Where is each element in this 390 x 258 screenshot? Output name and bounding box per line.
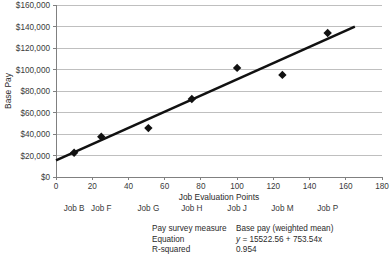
stats-value: 0.954 [236, 245, 257, 256]
x-tick-label: 160 [339, 182, 353, 191]
y-tick-label: $20,000 [20, 152, 50, 161]
data-point-marker[interactable] [233, 64, 241, 72]
scatter-plot: $0$20,000$40,000$60,000$80,000$100,000$1… [0, 0, 390, 258]
x-tick-label: 80 [196, 182, 206, 191]
x-tick-label: 120 [266, 182, 280, 191]
y-tick-label: $60,000 [20, 109, 50, 118]
x-tick-label: 40 [124, 182, 134, 191]
job-label-p: Job P [317, 204, 338, 213]
stats-row: R-squared0.954 [152, 245, 333, 256]
stats-value: Base pay (weighted mean) [236, 224, 333, 235]
y-tick-label: $0 [41, 173, 51, 182]
x-tick-label: 180 [375, 182, 389, 191]
y-tick-label: $160,000 [16, 1, 51, 10]
x-tick-label: 140 [303, 182, 317, 191]
stats-row: Pay survey measureBase pay (weighted mea… [152, 224, 333, 235]
job-label-b: Job B [64, 204, 85, 213]
stats-key: R-squared [152, 245, 236, 256]
job-label-m: Job M [271, 204, 293, 213]
job-label-f: Job F [91, 204, 111, 213]
statistics-table: Pay survey measureBase pay (weighted mea… [152, 224, 333, 256]
job-label-j: Job J [227, 204, 247, 213]
x-tick-label: 0 [54, 182, 59, 191]
job-label-g: Job G [137, 204, 159, 213]
x-tick-label: 100 [230, 182, 244, 191]
stats-key: Equation [152, 235, 236, 246]
chart-container: $0$20,000$40,000$60,000$80,000$100,000$1… [0, 0, 390, 258]
y-tick-label: $100,000 [16, 66, 51, 75]
job-label-h: Job H [181, 204, 202, 213]
stats-value: y = 15522.56 + 753.54x [236, 235, 322, 246]
x-tick-label: 60 [160, 182, 170, 191]
y-tick-label: $140,000 [16, 23, 51, 32]
y-tick-label: $120,000 [16, 44, 51, 53]
stats-row: Equationy = 15522.56 + 753.54x [152, 235, 333, 246]
data-point-marker[interactable] [144, 124, 152, 132]
data-point-marker[interactable] [278, 71, 286, 79]
y-tick-label: $40,000 [20, 130, 50, 139]
x-axis-title: Job Evaluation Points [179, 192, 260, 202]
stats-key: Pay survey measure [152, 224, 236, 235]
y-axis-title: Base Pay [3, 72, 13, 109]
x-tick-label: 20 [88, 182, 98, 191]
y-tick-label: $80,000 [20, 87, 50, 96]
data-point-marker[interactable] [323, 29, 331, 37]
